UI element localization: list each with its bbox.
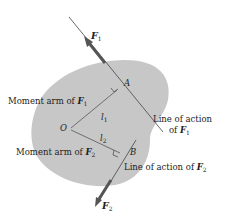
force-f1-arrow-shaft	[89, 43, 105, 63]
point-b-label: B	[130, 148, 136, 157]
point-o-label: O	[60, 124, 67, 133]
lever-arm-l2-label: l2	[100, 134, 107, 144]
line-of-action-f2-label: Line of action of F2	[124, 163, 207, 173]
line-of-action-f1-label-1: Line of action	[153, 115, 212, 124]
force-f1-label: F1	[91, 31, 102, 42]
moment-arm-f1-label: Moment arm of F1	[8, 97, 87, 107]
diagram-canvas	[0, 0, 226, 223]
force-f2-label: F2	[102, 201, 113, 212]
moment-arm-f2-label: Moment arm of F2	[16, 148, 95, 158]
line-of-action-f1-label-2: of F1	[169, 126, 190, 136]
point-a-label: A	[124, 79, 130, 88]
lever-arm-l1-label: l1	[101, 113, 108, 123]
